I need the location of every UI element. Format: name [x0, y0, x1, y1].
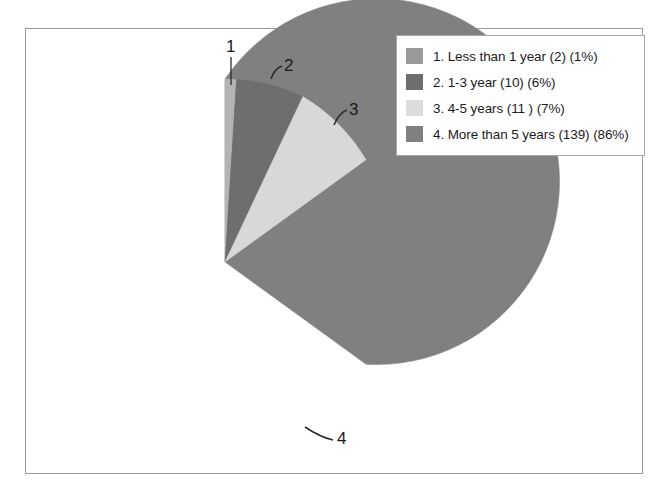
legend-label-4: 4. More than 5 years (139) (86%)	[433, 127, 629, 142]
pie-callout-4: 4	[337, 430, 346, 447]
legend-swatch-icon-4	[406, 126, 423, 142]
legend-label-3: 3. 4-5 years (11 ) (7%)	[433, 101, 565, 116]
legend-item-1[interactable]: 1. Less than 1 year (2) (1%)	[406, 43, 636, 69]
legend-swatch-icon-3	[406, 100, 423, 116]
pie-callout-1: 1	[226, 38, 235, 55]
legend-swatch-icon-2	[406, 74, 423, 90]
pie-callout-2: 2	[284, 57, 293, 74]
legend-swatch-icon-1	[406, 48, 423, 64]
pie-callout-3: 3	[349, 101, 358, 118]
legend-item-4[interactable]: 4. More than 5 years (139) (86%)	[406, 121, 636, 147]
legend-item-3[interactable]: 3. 4-5 years (11 ) (7%)	[406, 95, 636, 121]
chart-legend: 1. Less than 1 year (2) (1%) 2. 1-3 year…	[396, 35, 645, 156]
legend-label-1: 1. Less than 1 year (2) (1%)	[433, 49, 598, 64]
legend-label-2: 2. 1-3 year (10) (6%)	[433, 75, 555, 90]
legend-item-2[interactable]: 2. 1-3 year (10) (6%)	[406, 69, 636, 95]
figure-caption	[26, 478, 446, 487]
